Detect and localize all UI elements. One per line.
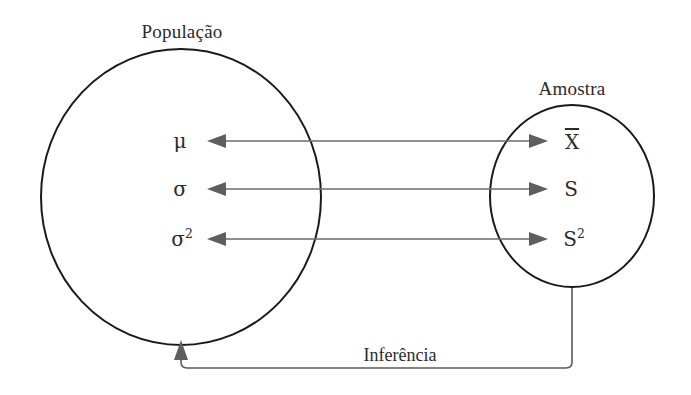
estimation-arrow-sd xyxy=(207,182,548,196)
sample-statistic-s-squared: S2 xyxy=(563,229,585,249)
population-parameter-sigma-squared-symbol: σ xyxy=(171,227,185,251)
sample-statistic-x-bar-symbol: X xyxy=(565,130,579,154)
population-title: População xyxy=(142,22,223,41)
population-parameter-mu: μ xyxy=(174,131,187,151)
estimation-arrow-mean xyxy=(207,134,548,148)
population-parameter-sigma: σ xyxy=(173,179,187,199)
inference-label: Inferência xyxy=(364,346,437,364)
sample-statistic-s: S xyxy=(564,179,578,199)
sample-statistic-x-bar: X xyxy=(565,132,579,152)
statistics-inference-diagram: População Amostra μ σ σ2 X S S2 Inferênc… xyxy=(0,0,691,395)
population-parameter-sigma-squared: σ2 xyxy=(171,229,193,249)
population-parameter-sigma-squared-exponent: 2 xyxy=(185,226,193,241)
sample-statistic-s-squared-exponent: 2 xyxy=(577,226,585,241)
sample-title: Amostra xyxy=(539,79,606,98)
population-parameter-sigma-symbol: σ xyxy=(173,177,187,201)
sample-statistic-s-symbol: S xyxy=(564,177,578,201)
sample-statistic-s-squared-symbol: S xyxy=(563,227,577,251)
diagram-canvas xyxy=(0,0,691,395)
population-parameter-mu-symbol: μ xyxy=(174,129,187,153)
